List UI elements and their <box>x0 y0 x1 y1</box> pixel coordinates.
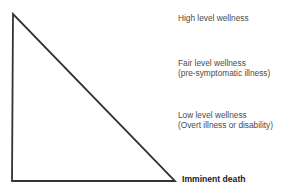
label-low-level-wellness: Low level wellness (Overt illness or dis… <box>178 110 273 130</box>
label-line: High level wellness <box>178 13 249 23</box>
label-subline: (pre-symptomatic illness) <box>178 68 270 78</box>
label-high-level-wellness: High level wellness <box>178 13 249 23</box>
label-subline: (Overt illness or disability) <box>178 120 273 130</box>
label-line: Low level wellness <box>178 110 273 120</box>
wellness-triangle <box>0 0 302 196</box>
triangle-shape <box>12 14 175 181</box>
label-imminent-death: Imminent death <box>182 174 246 184</box>
label-line: Fair level wellness <box>178 58 270 68</box>
label-fair-level-wellness: Fair level wellness (pre-symptomatic ill… <box>178 58 270 78</box>
